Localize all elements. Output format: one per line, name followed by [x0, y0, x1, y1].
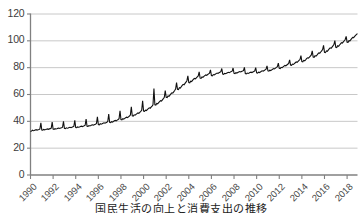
chart-screenshot: 020406080100120 199019921994199619982000…: [0, 0, 363, 213]
y-tick-label: 40: [0, 114, 25, 126]
y-tick-label: 0: [0, 168, 25, 180]
chart-plot-area: [0, 0, 363, 213]
y-tick-label: 20: [0, 141, 25, 153]
figure-caption: 国民生活の向上と消費支出の推移: [0, 203, 363, 213]
line-chart-figure: 020406080100120 199019921994199619982000…: [0, 0, 363, 213]
y-tick-label: 80: [0, 60, 25, 72]
y-tick-label: 60: [0, 87, 25, 99]
chart-background: [0, 0, 363, 213]
y-tick-label: 100: [0, 33, 25, 45]
y-tick-label: 120: [0, 7, 25, 19]
